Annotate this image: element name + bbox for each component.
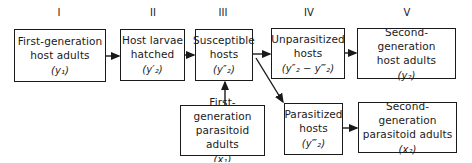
box-line2: hosts xyxy=(299,121,328,135)
box-first-generation-parasitoid-adults: First-generation parasitoid adults (x₁) xyxy=(180,105,265,156)
box-unparasitized-hosts: Unparasitized hosts (y″₂ − y‴₂) xyxy=(271,28,345,79)
box-symbol: (y″₂ − y‴₂) xyxy=(282,62,334,76)
box-line1: Unparasitized xyxy=(271,32,345,46)
box-line2: parasitoid adults xyxy=(181,123,264,151)
box-line1: Second-generation xyxy=(358,25,455,53)
box-line1: First-generation xyxy=(18,34,103,48)
box-line2: hosts xyxy=(210,47,239,61)
box-symbol: (x₁) xyxy=(213,153,231,163)
box-line1: Host larvae xyxy=(122,33,183,47)
box-symbol: (y₂) xyxy=(397,69,415,83)
box-parasitized-hosts: Parasitized hosts (y‴₂) xyxy=(284,103,343,155)
box-susceptible-hosts: Susceptible hosts (y″₂) xyxy=(195,29,253,81)
box-host-larvae-hatched: Host larvae hatched (y′₂) xyxy=(120,29,185,81)
box-symbol: (y′₂) xyxy=(142,63,163,77)
box-first-generation-host-adults: First-generation host adults (y₁) xyxy=(14,29,106,82)
box-symbol: (y″₂) xyxy=(213,63,235,77)
box-line1: First-generation xyxy=(181,95,264,123)
box-line2: host adults xyxy=(377,53,436,67)
box-line2: parasitoid adults xyxy=(363,127,453,141)
box-symbol: (y‴₂) xyxy=(302,137,325,151)
box-line2: hatched xyxy=(131,47,174,61)
box-line2: host adults xyxy=(30,48,89,62)
box-symbol: (y₁) xyxy=(51,64,69,78)
box-second-generation-parasitoid-adults: Second-generation parasitoid adults (x₂) xyxy=(358,102,457,153)
box-line1: Parasitized xyxy=(284,107,342,121)
box-line2: hosts xyxy=(294,46,323,60)
box-second-generation-host-adults: Second-generation host adults (y₂) xyxy=(357,28,456,79)
box-line1: Susceptible xyxy=(193,33,255,47)
box-symbol: (x₂) xyxy=(398,143,416,157)
box-line1: Second-generation xyxy=(359,99,456,127)
